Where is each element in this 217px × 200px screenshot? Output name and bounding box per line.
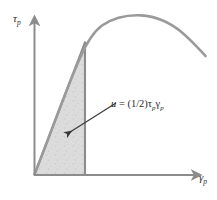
equation-coefficient: (1/2) bbox=[127, 98, 147, 109]
equation-term2-subscript: p bbox=[160, 104, 164, 112]
figure-container: τp γp u = (1/2)τpγp bbox=[0, 0, 217, 200]
y-axis-label: τp bbox=[13, 13, 21, 27]
stress-strain-diagram-svg bbox=[0, 0, 217, 200]
y-axis-subscript: p bbox=[17, 18, 21, 27]
equation-equals: = bbox=[119, 98, 125, 109]
x-axis-subscript: p bbox=[203, 177, 207, 186]
equation-variable: u bbox=[111, 98, 116, 109]
x-axis-label: γp bbox=[199, 172, 207, 186]
resilience-equation-label: u = (1/2)τpγp bbox=[111, 99, 164, 112]
